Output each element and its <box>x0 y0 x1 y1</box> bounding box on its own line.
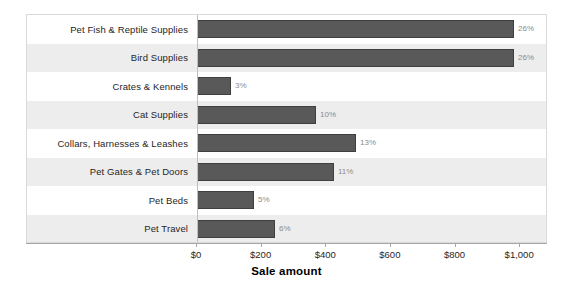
category-label: Pet Beds <box>27 186 195 215</box>
bar <box>197 191 254 209</box>
x-axis-tick-mark <box>196 243 197 247</box>
bar-row: Pet Travel6% <box>27 215 546 244</box>
bar-track: 3% <box>197 72 546 101</box>
bar <box>197 163 334 181</box>
bar-track: 26% <box>197 44 546 73</box>
bar-track: 5% <box>197 186 546 215</box>
bar-rows: Pet Fish & Reptile Supplies26%Bird Suppl… <box>27 15 546 243</box>
category-label: Pet Travel <box>27 215 195 244</box>
bar-track: 11% <box>197 158 546 187</box>
bar-row: Pet Gates & Pet Doors11% <box>27 158 546 187</box>
x-axis-tick-label: $1,000 <box>505 249 534 260</box>
bar <box>197 49 514 67</box>
plot-area: Pet Fish & Reptile Supplies26%Bird Suppl… <box>26 14 547 243</box>
bar-data-label: 5% <box>258 196 270 204</box>
bar-row: Crates & Kennels3% <box>27 72 546 101</box>
bar <box>197 220 275 238</box>
bar-row: Pet Beds5% <box>27 186 546 215</box>
bar-track: 10% <box>197 101 546 130</box>
bar-row: Bird Supplies26% <box>27 44 546 73</box>
x-axis-tick-label: $0 <box>191 249 202 260</box>
x-axis-tick-label: $400 <box>315 249 336 260</box>
bar-row: Collars, Harnesses & Leashes13% <box>27 129 546 158</box>
bar-row: Pet Fish & Reptile Supplies26% <box>27 15 546 44</box>
bar-track: 6% <box>197 215 546 244</box>
x-axis-tick-label: $800 <box>444 249 465 260</box>
value-axis-baseline <box>197 15 198 242</box>
x-axis: $0$200$400$600$800$1,000 Sale amount <box>26 243 547 293</box>
category-label: Pet Fish & Reptile Supplies <box>27 15 195 44</box>
bar-track: 26% <box>197 15 546 44</box>
bar-data-label: 6% <box>279 225 291 233</box>
bar-data-label: 3% <box>235 82 247 90</box>
bar-data-label: 13% <box>360 139 376 147</box>
bar-data-label: 26% <box>518 54 534 62</box>
bar <box>197 77 231 95</box>
bar-row: Cat Supplies10% <box>27 101 546 130</box>
category-label: Bird Supplies <box>27 44 195 73</box>
bar <box>197 20 514 38</box>
x-axis-tick-mark <box>325 243 326 247</box>
x-axis-title: Sale amount <box>26 265 547 277</box>
bar-track: 13% <box>197 129 546 158</box>
bar <box>197 106 316 124</box>
category-label: Cat Supplies <box>27 101 195 130</box>
bar-data-label: 10% <box>320 111 336 119</box>
bar-data-label: 11% <box>338 168 353 176</box>
x-axis-tick-label: $600 <box>379 249 400 260</box>
category-label: Collars, Harnesses & Leashes <box>27 129 195 158</box>
x-axis-tick-mark <box>455 243 456 247</box>
bar-data-label: 26% <box>518 25 534 33</box>
category-label: Pet Gates & Pet Doors <box>27 158 195 187</box>
category-label: Crates & Kennels <box>27 72 195 101</box>
bar <box>197 134 356 152</box>
x-axis-tick-mark <box>390 243 391 247</box>
x-axis-tick-label: $200 <box>250 249 271 260</box>
bar-chart: Pet Fish & Reptile Supplies26%Bird Suppl… <box>0 0 574 293</box>
x-axis-tick-mark <box>519 243 520 247</box>
x-axis-tick-mark <box>261 243 262 247</box>
x-axis-line <box>26 243 547 244</box>
